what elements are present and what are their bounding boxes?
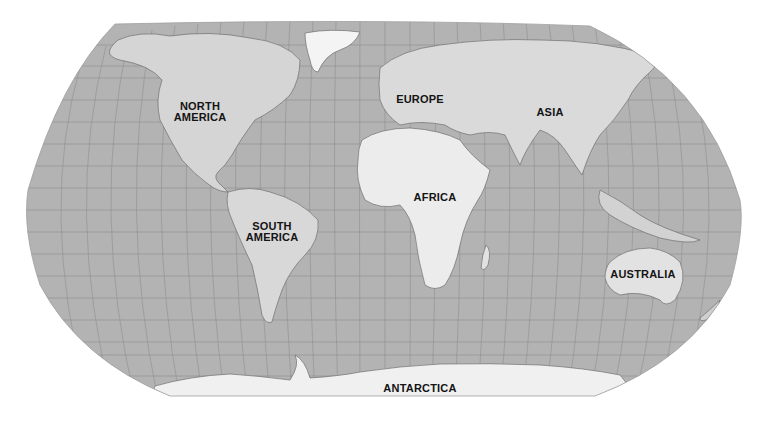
label-line: AMERICA xyxy=(242,232,302,243)
label-line: AUSTRALIA xyxy=(603,269,683,280)
label-antarctica: ANTARCTICA xyxy=(375,383,465,394)
label-line: AFRICA xyxy=(405,192,465,203)
label-asia: ASIA xyxy=(530,107,570,118)
label-south-america: SOUTH AMERICA xyxy=(242,221,302,243)
label-line: EUROPE xyxy=(390,94,450,105)
label-line: ANTARCTICA xyxy=(375,383,465,394)
label-africa: AFRICA xyxy=(405,192,465,203)
label-north-america: NORTH AMERICA xyxy=(170,101,230,123)
label-line: AMERICA xyxy=(170,112,230,123)
label-line: ASIA xyxy=(530,107,570,118)
label-europe: EUROPE xyxy=(390,94,450,105)
label-australia: AUSTRALIA xyxy=(603,269,683,280)
world-map xyxy=(0,0,767,428)
